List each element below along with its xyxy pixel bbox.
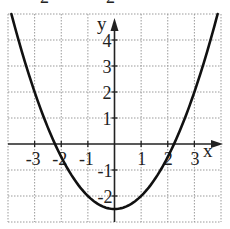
- y-tick-label: 4: [103, 31, 112, 51]
- y-axis-label: y: [97, 13, 107, 34]
- x-tick-label: -3: [26, 149, 41, 169]
- x-tick-label: 1: [137, 149, 146, 169]
- axes: [8, 18, 223, 222]
- y-tick-label: 1: [103, 109, 112, 129]
- ticks: -3-2-1123-2-11234: [26, 31, 200, 207]
- y-tick-label: -1: [98, 161, 113, 181]
- parabola-chart: -3-2-1123-2-11234 x y: [0, 0, 230, 229]
- y-axis-arrow-icon: [111, 18, 119, 31]
- x-tick-label: -1: [79, 149, 94, 169]
- y-tick-label: 3: [103, 57, 112, 77]
- y-tick-label: 2: [103, 83, 112, 103]
- x-axis-label: x: [203, 140, 213, 161]
- x-tick-label: 3: [190, 149, 199, 169]
